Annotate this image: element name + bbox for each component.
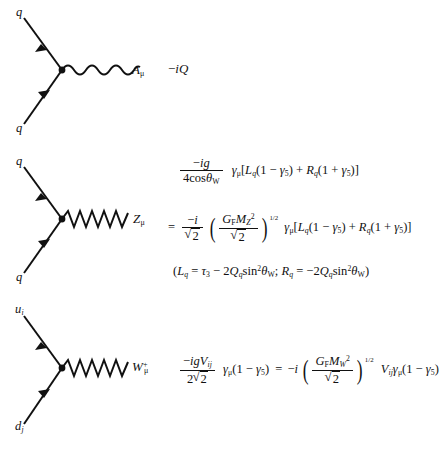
boson-symbol-W: W xyxy=(132,359,143,374)
boson-label-photon: Aμ xyxy=(132,63,144,78)
z-fraction-numerator: −ig xyxy=(180,156,223,170)
paren-inner: GFMZ2 2 xyxy=(217,212,259,244)
fermion-leg-upper xyxy=(24,316,62,368)
vertex-dot xyxy=(59,216,66,223)
boson-subscript-mu: μ xyxy=(140,218,144,227)
leg-label-incoming-u: ui xyxy=(15,303,24,317)
paren-left: ( xyxy=(210,218,216,239)
paren-inner: GFMW2 2 xyxy=(310,354,355,386)
boson-subscript-mu: μ xyxy=(144,366,148,375)
fermion-leg-upper xyxy=(24,18,62,70)
w-vij-gamma: Vijγμ(1 − γ5) xyxy=(381,362,439,376)
figure-canvas: q q Aμ −iQ q q Zμ −ig 4cosθW γμ[Lq xyxy=(0,0,444,450)
denominator: 2 xyxy=(182,227,203,243)
z-gf-mz-group: ( GFMZ2 2 )1/2 xyxy=(208,212,278,244)
paren-right: ) xyxy=(357,360,363,381)
gf-mw-numerator: GFMW2 xyxy=(312,354,353,370)
gf-mw-denominator: 2 xyxy=(312,370,353,386)
leg-label-outgoing-q: q xyxy=(16,271,22,284)
z-prefactor-fraction: −ig 4cosθW xyxy=(180,156,223,187)
z-coupling-line-2: = −i 2 ( GFMZ2 2 )1/2 γμ[Lq(1 − γ5) + Rq… xyxy=(168,212,412,244)
vertex-dot xyxy=(59,67,66,74)
z-gamma-bracket: γμ[Lq(1 − γ5) + Rq(1 + γ5)] xyxy=(232,163,359,177)
boson-label-z: Zμ xyxy=(133,212,145,227)
paren-right: ) xyxy=(261,218,267,239)
w-zigzag-line xyxy=(62,360,128,376)
photon-wavy-line xyxy=(62,66,140,75)
theta-w-subscript: W xyxy=(212,177,219,186)
arrowhead-lower xyxy=(38,389,50,398)
exponent-half: 1/2 xyxy=(269,214,278,221)
d-subscript-j: j xyxy=(21,425,23,434)
z-minus-i-over-sqrt2: −i 2 xyxy=(182,213,203,243)
boson-subscript-mu: μ xyxy=(140,69,144,78)
w-vertex-lines xyxy=(0,300,200,446)
gf-mz-numerator: GFMZ2 xyxy=(219,212,257,228)
equals-sign: = xyxy=(168,220,175,234)
w-fraction-numerator: −igVij xyxy=(180,354,215,370)
z-zigzag-line xyxy=(62,211,128,227)
exponent-half: 1/2 xyxy=(365,356,374,363)
photon-factor-lead: −iQ xyxy=(168,61,188,76)
boson-label-w: W+μ xyxy=(132,360,148,375)
arrowhead-lower xyxy=(38,90,50,99)
vertex-dot xyxy=(59,365,66,372)
paren-left: ( xyxy=(303,360,309,381)
z-gamma-bracket-2: γμ[Lq(1 − γ5) + Rq(1 + γ5)] xyxy=(284,220,411,234)
numerator: −i xyxy=(182,213,203,227)
w-coupling-line: −igVij 22 γμ(1 − γ5) = −i ( GFMW2 2 )1/2… xyxy=(178,354,439,386)
boson-symbol-A: A xyxy=(132,62,140,77)
leg-label-outgoing-q: q xyxy=(16,122,22,135)
w-prefactor-fraction: −igVij 22 xyxy=(180,354,215,386)
w-minus-i: −i xyxy=(287,362,298,376)
w-fraction-denominator: 22 xyxy=(180,370,215,386)
w-equals-sign: = xyxy=(275,362,282,376)
fermion-leg-upper xyxy=(24,167,62,219)
w-gf-mw-group: ( GFMW2 2 )1/2 xyxy=(301,354,374,386)
w-gamma-left: γμ(1 − γ5) xyxy=(223,362,272,376)
u-subscript-i: i xyxy=(21,308,23,317)
photon-coupling-factor: −iQ xyxy=(168,62,189,77)
z-fraction-denominator: 4cosθW xyxy=(180,170,223,187)
z-coupling-line-1: −ig 4cosθW γμ[Lq(1 − γ5) + Rq(1 + γ5)] xyxy=(178,156,359,187)
gf-mz-denominator: 2 xyxy=(219,228,257,244)
z-definitions-line: (Lq = τ3 − 2Qqsin2θW; Rq = −2Qqsin2θW) xyxy=(173,265,369,279)
arrowhead-lower xyxy=(38,239,50,248)
leg-label-outgoing-d: dj xyxy=(15,420,24,434)
leg-label-incoming-q: q xyxy=(16,155,22,168)
leg-label-incoming-q: q xyxy=(16,6,22,19)
quark-w-vertex: ui dj xyxy=(0,300,200,446)
